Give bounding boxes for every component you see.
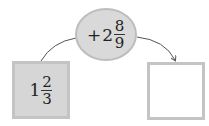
operation-numerator: 8	[115, 19, 125, 33]
input-numerator: 2	[42, 75, 52, 89]
input-denominator: 3	[42, 92, 52, 106]
operation-ellipse: + 2 8 9	[75, 8, 137, 61]
operation-expression: + 2 8 9	[87, 19, 125, 50]
answer-box[interactable]	[147, 62, 205, 120]
operation-fraction: 8 9	[114, 19, 125, 50]
input-connector-line	[41, 38, 76, 61]
operator: +	[87, 25, 101, 45]
input-box: 1 2 3	[12, 61, 70, 119]
operation-denominator: 9	[115, 36, 125, 50]
operation-whole: 2	[102, 25, 113, 45]
output-arrow	[137, 37, 175, 60]
input-fraction: 2 3	[41, 75, 52, 106]
input-mixed-number: 1 2 3	[30, 75, 53, 106]
input-whole: 1	[30, 80, 41, 100]
